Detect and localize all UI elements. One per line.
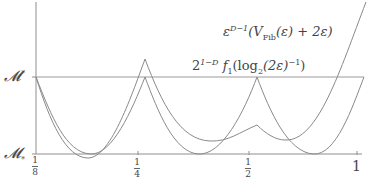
annotation-vfib-curve: εD−1(VFib(ε) + 2ε) — [223, 25, 333, 38]
x-tick-label-1-8: 18 — [32, 156, 38, 177]
curve-f1 — [36, 77, 364, 154]
x-tick-label-1: 1 — [352, 158, 361, 174]
y-label-m-upper: 𝓜* — [4, 69, 25, 84]
y-label-m-lower: 𝓜* — [4, 146, 25, 161]
annotation-f1-curve: 21−D f1(log2(2ε)−1) — [192, 59, 305, 72]
x-tick-label-1-4: 14 — [134, 158, 140, 179]
x-tick-label-1-2: 12 — [245, 158, 251, 179]
